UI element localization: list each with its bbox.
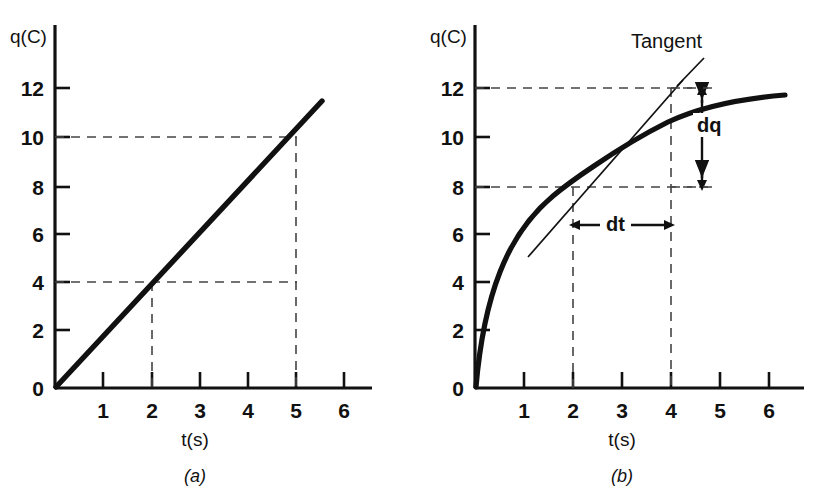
- chart-b-y-tick-4: 4: [426, 272, 464, 293]
- chart-b-y-tick-6: 6: [426, 224, 464, 245]
- chart-b-x-tick-2: 2: [553, 400, 593, 421]
- chart-a-y-tick-4: 4: [6, 272, 44, 293]
- chart-a-x-tick-5: 5: [276, 400, 316, 421]
- chart-b-x-axis-title: t(s): [592, 430, 652, 449]
- chart-b-dq-arrow: [697, 84, 707, 191]
- chart-b-tangent-label: Tangent: [631, 31, 702, 51]
- chart-b-canvas: [406, 0, 813, 501]
- chart-b-axes: [475, 25, 804, 388]
- chart-a-x-ticks: [103, 372, 344, 388]
- chart-b-x-tick-5: 5: [700, 400, 740, 421]
- chart-a-x-tick-3: 3: [180, 400, 220, 421]
- chart-a-y-tick-10: 10: [6, 127, 44, 148]
- chart-b-x-tick-4: 4: [651, 400, 691, 421]
- chart-b-x-tick-3: 3: [602, 400, 642, 421]
- chart-a-y-tick-2: 2: [6, 320, 44, 341]
- chart-b-dt-label: dt: [600, 212, 631, 236]
- chart-a-y-axis-title: q(C): [10, 27, 47, 46]
- chart-b-y-tick-0: 0: [426, 378, 464, 399]
- chart-b-y-axis-title: q(C): [430, 27, 467, 46]
- chart-a-y-tick-0: 0: [6, 378, 44, 399]
- chart-b-caption: (b): [592, 467, 652, 485]
- chart-b-x-ticks: [524, 372, 769, 388]
- chart-b-y-tick-2: 2: [426, 320, 464, 341]
- chart-b-dq-label: dq: [693, 113, 725, 137]
- chart-panel-b: q(C) 12 10 8 6 4 2 0 1 2 3 4 5 6 Tangent…: [406, 0, 813, 501]
- chart-panel-a: q(C) 12 10 8 6 4 2 0 1 2 3 4 5 6 t(s) (a…: [0, 0, 406, 501]
- figure-charge-vs-time: q(C) 12 10 8 6 4 2 0 1 2 3 4 5 6 t(s) (a…: [0, 0, 813, 501]
- chart-a-x-tick-2: 2: [132, 400, 172, 421]
- chart-b-tangent-leader: [677, 58, 704, 86]
- chart-a-y-tick-6: 6: [6, 224, 44, 245]
- chart-a-x-tick-1: 1: [83, 400, 123, 421]
- chart-b-y-tick-12: 12: [426, 78, 464, 99]
- chart-a-x-tick-6: 6: [324, 400, 364, 421]
- chart-b-x-tick-1: 1: [504, 400, 544, 421]
- chart-a-y-tick-12: 12: [6, 78, 44, 99]
- chart-b-y-tick-8: 8: [426, 177, 464, 198]
- chart-a-canvas: [0, 0, 406, 501]
- chart-a-y-ticks: [55, 88, 70, 330]
- chart-b-dq-guide-extensions: [671, 88, 714, 187]
- chart-a-y-tick-8: 8: [6, 177, 44, 198]
- chart-b-guide-lines: [475, 88, 711, 388]
- chart-b-y-tick-10: 10: [426, 127, 464, 148]
- chart-b-x-tick-6: 6: [749, 400, 789, 421]
- chart-a-x-tick-4: 4: [228, 400, 268, 421]
- chart-a-data-line: [56, 101, 322, 387]
- chart-a-caption: (a): [165, 467, 225, 485]
- chart-a-x-axis-title: t(s): [165, 430, 225, 449]
- chart-b-y-ticks: [475, 88, 490, 330]
